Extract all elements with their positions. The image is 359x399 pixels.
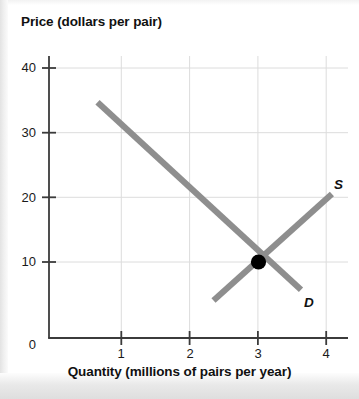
supply-curve	[214, 194, 332, 301]
supply-demand-figure: Price (dollars per pair)	[0, 0, 359, 399]
x-tick-label-4: 4	[316, 346, 336, 361]
x-tick-label-3: 3	[248, 346, 268, 361]
y-tick-label-40: 40	[6, 60, 36, 75]
y-tick-label-30: 30	[6, 125, 36, 140]
y-tick-label-10: 10	[6, 254, 36, 269]
x-axis-title: Quantity (millions of pairs per year)	[0, 364, 359, 379]
plot-canvas	[0, 0, 359, 399]
y-tick-label-0: 0	[6, 337, 36, 352]
equilibrium-point	[251, 254, 266, 269]
y-tick-label-20: 20	[6, 190, 36, 205]
grid-horizontal	[49, 68, 348, 262]
x-tick-label-1: 1	[111, 346, 131, 361]
supply-curve-label: S	[334, 177, 343, 192]
x-tick-label-2: 2	[180, 346, 200, 361]
demand-curve-label: D	[304, 295, 314, 310]
